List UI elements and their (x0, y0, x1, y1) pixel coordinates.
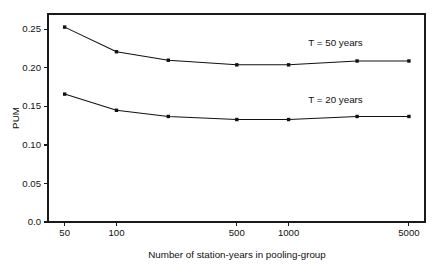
y-tick-label: 0.15 (22, 100, 41, 111)
series-data-point (167, 59, 170, 62)
series-data-point (235, 118, 238, 121)
series-data-point (407, 59, 410, 62)
series-data-point (63, 92, 66, 95)
y-tick-label: 0.20 (22, 62, 41, 73)
series-data-point (355, 59, 358, 62)
x-axis-title: Number of station-years in pooling-group (148, 249, 326, 260)
x-tick-label: 50 (59, 227, 70, 238)
series-data-point (115, 50, 118, 53)
series-data-point (235, 63, 238, 66)
series-data-point (407, 115, 410, 118)
series-annotation-label: T = 50 years (308, 37, 363, 48)
line-chart: 0.00.050.100.150.200.25 5010050010005000… (0, 0, 440, 268)
y-tick-label: 0.05 (22, 178, 41, 189)
y-tick-label: 0.25 (22, 23, 41, 34)
series-data-point (63, 25, 66, 28)
chart-figure: 0.00.050.100.150.200.25 5010050010005000… (0, 0, 440, 268)
y-axis-title: PUM (10, 107, 21, 129)
series-data-point (287, 63, 290, 66)
series-annotation-label: T = 20 years (308, 94, 363, 105)
x-tick-label: 100 (108, 227, 124, 238)
x-tick-label: 1000 (278, 227, 299, 238)
series-data-point (355, 115, 358, 118)
series-data-point (167, 115, 170, 118)
y-tick-label: 0.10 (22, 139, 41, 150)
series-data-point (287, 118, 290, 121)
x-tick-label: 5000 (398, 227, 419, 238)
series-data-point (115, 109, 118, 112)
x-tick-label: 500 (229, 227, 245, 238)
y-tick-label: 0.0 (28, 216, 41, 227)
